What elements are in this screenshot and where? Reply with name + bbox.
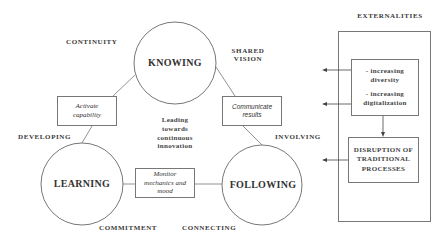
disruption-line3: PROCESSES bbox=[354, 165, 413, 174]
continuity-label: CONTINUITY bbox=[66, 38, 118, 46]
communicate-results-box: Communicate results bbox=[222, 96, 282, 126]
externalities-inner-box: - increasing diversity - increasing digi… bbox=[351, 59, 419, 116]
communicate-following-line bbox=[243, 126, 262, 145]
center-line1: Leading bbox=[148, 116, 202, 125]
monitor-line3: mood bbox=[144, 187, 186, 195]
center-line3: continuous bbox=[148, 134, 202, 143]
monitor-line2: mechanics and bbox=[144, 179, 186, 187]
following-label: FOLLOWING bbox=[222, 179, 304, 191]
arrow-left-icon bbox=[322, 68, 327, 72]
vision-label: VISION bbox=[228, 55, 268, 63]
externalities-title: EXTERNALITIES bbox=[356, 12, 424, 20]
commitment-label: COMMITMENT bbox=[99, 224, 157, 232]
shared-label: SHARED bbox=[228, 47, 268, 55]
center-line2: towards bbox=[148, 125, 202, 134]
disruption-line1: DISRUPTION OF bbox=[354, 146, 413, 155]
center-line4: innovation bbox=[148, 142, 202, 151]
shared-vision-label: SHARED VISION bbox=[228, 47, 268, 63]
knowing-activate-line bbox=[113, 75, 135, 96]
learning-label: LEARNING bbox=[41, 178, 123, 190]
knowing-label: KNOWING bbox=[134, 57, 216, 69]
digitalization-item: - increasing digitalization bbox=[363, 90, 406, 108]
developing-label: DEVELOPING bbox=[18, 133, 71, 141]
center-text: Leading towards continuous innovation bbox=[148, 116, 202, 151]
diversity-item: - increasing diversity bbox=[366, 67, 404, 85]
communicate-line2: results bbox=[232, 111, 272, 119]
disruption-line2: TRADITIONAL bbox=[354, 155, 413, 164]
connecting-label: CONNECTING bbox=[182, 224, 236, 232]
knowing-communicate-line bbox=[216, 67, 235, 96]
activate-line1: Activate bbox=[73, 102, 101, 111]
involving-label: INVOLVING bbox=[275, 133, 321, 141]
activate-learning-line bbox=[82, 126, 92, 143]
diversity-line1: - increasing bbox=[366, 67, 404, 76]
monitor-box: Monitor mechanics and mood bbox=[135, 168, 195, 198]
digitalization-line2: digitalization bbox=[363, 99, 406, 108]
diversity-line2: diversity bbox=[366, 76, 404, 85]
activate-line2: capability bbox=[73, 111, 101, 120]
activate-capability-box: Activate capability bbox=[57, 96, 117, 126]
arrow-left-icon bbox=[322, 102, 327, 106]
monitor-line1: Monitor bbox=[144, 170, 186, 178]
disruption-box: DISRUPTION OF TRADITIONAL PROCESSES bbox=[348, 137, 419, 183]
arrow-left-icon bbox=[322, 158, 327, 162]
communicate-line1: Communicate bbox=[232, 103, 272, 111]
digitalization-line1: - increasing bbox=[363, 90, 406, 99]
